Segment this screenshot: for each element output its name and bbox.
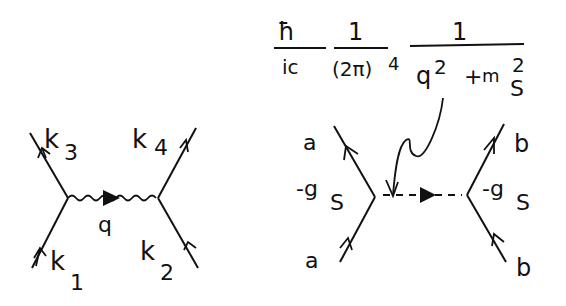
arrow-icon <box>184 242 196 250</box>
arrow-icon <box>492 234 504 246</box>
m-subscript: S <box>510 76 524 101</box>
m-symbol: m <box>482 65 500 86</box>
label-coupling-left-sub: S <box>330 190 344 215</box>
label-a-top: a <box>303 130 316 155</box>
label-coupling-right: -g <box>482 176 504 201</box>
label-b-top: b <box>514 130 529 158</box>
label-q: q <box>98 212 112 237</box>
ic-text: ic <box>282 55 299 79</box>
label-k3: k <box>44 124 59 154</box>
arrow-icon <box>344 146 358 160</box>
label-k2: k <box>140 236 155 266</box>
label-k1-sub: 1 <box>70 270 84 295</box>
leg-k2 <box>158 198 198 268</box>
label-k4-sub: 4 <box>154 135 168 160</box>
numerator-one: 1 <box>452 18 467 46</box>
label-a-bottom: a <box>305 248 318 273</box>
left-feynman-diagram: k 3 k 4 q k 1 k 2 <box>30 124 198 295</box>
propagator-formula: ħ ic 1 (2π) 4 1 q 2 + m 2 S <box>274 18 525 101</box>
leg-a-in <box>340 197 375 262</box>
leg-b-in <box>467 195 506 262</box>
arrow-icon <box>34 248 46 266</box>
label-k4: k <box>132 124 147 154</box>
numerator-one: 1 <box>348 18 363 46</box>
label-coupling-right-sub: S <box>516 190 530 215</box>
propagator-arrow-icon <box>420 187 436 203</box>
two-pi-exponent: 4 <box>388 53 399 74</box>
label-k1: k <box>50 246 65 276</box>
fraction-bar <box>410 44 524 46</box>
feynman-diagrams: k 3 k 4 q k 1 k 2 ħ ic 1 (2π) 4 1 q 2 + … <box>0 0 566 306</box>
q-exponent: 2 <box>434 55 447 79</box>
label-k2-sub: 2 <box>160 260 174 285</box>
two-pi-text: (2π) <box>332 57 372 81</box>
q-symbol: q <box>416 62 431 90</box>
pointer-squiggle-arrow <box>393 98 443 195</box>
label-b-bottom: b <box>516 254 531 282</box>
arrow-icon <box>386 180 398 196</box>
hbar-symbol: ħ <box>278 18 295 46</box>
right-feynman-diagram: a a -g S b b -g S <box>296 124 531 282</box>
m-exponent: 2 <box>512 53 525 77</box>
plus-sign: + <box>464 64 482 89</box>
label-coupling-left: -g <box>296 176 318 201</box>
leg-a-out <box>334 126 375 197</box>
propagator-arrow-icon <box>103 190 120 206</box>
arrow-icon <box>340 238 352 250</box>
label-k3-sub: 3 <box>64 140 78 165</box>
